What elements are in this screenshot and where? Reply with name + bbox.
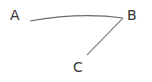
node-label-b: B <box>127 8 137 22</box>
graph-diagram: A B C <box>0 0 152 82</box>
edge-a-b <box>30 16 123 21</box>
node-label-c: C <box>73 60 83 74</box>
node-label-a: A <box>10 8 20 22</box>
edge-b-c <box>87 18 123 55</box>
